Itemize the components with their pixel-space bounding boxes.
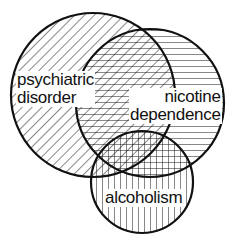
label-alcoholism: alcoholism [104,189,183,207]
label-psychiatric-line2: disorder [17,89,94,107]
label-alcoholism-line1: alcoholism [105,189,182,207]
label-psychiatric-line1: psychiatric [17,71,94,89]
label-psychiatric: psychiatric disorder [16,71,95,107]
label-nicotine-line2: dependence [130,106,221,124]
label-nicotine-line1: nicotine [130,88,221,106]
label-nicotine: nicotine dependence [129,88,222,124]
